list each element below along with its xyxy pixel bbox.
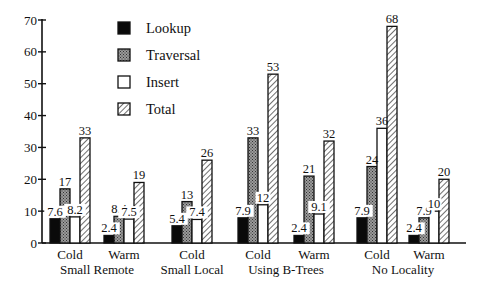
group-label: Small Remote	[60, 262, 134, 277]
group-label: No Locality	[372, 262, 435, 277]
y-tick-label: 60	[24, 44, 37, 59]
value-label-insert: 7.5	[121, 205, 137, 219]
bar-insert	[314, 214, 324, 243]
bar-total	[268, 74, 278, 243]
legend-swatch-traversal	[118, 49, 130, 61]
value-label-insert: 12	[257, 191, 270, 205]
group-label: Using B-Trees	[248, 262, 324, 277]
value-label-traversal: 17	[59, 175, 72, 189]
legend-label-insert: Insert	[146, 74, 179, 90]
subgroup-label: Cold	[245, 247, 271, 262]
value-label-insert: 10	[428, 197, 441, 211]
bar-total	[387, 26, 397, 243]
value-label-insert: 9.1	[311, 200, 327, 214]
subgroup-label: Cold	[57, 247, 83, 262]
bar-lookup	[172, 226, 182, 243]
value-label-lookup: 7.6	[47, 205, 63, 219]
value-label-lookup: 2.4	[406, 221, 422, 235]
bar-chart: 010203040506070 7.6178.2332.48.47.5195.4…	[0, 0, 480, 285]
legend-label-lookup: Lookup	[146, 20, 191, 36]
bar-lookup	[294, 235, 304, 243]
legend-label-total: Total	[146, 101, 176, 117]
y-tick-label: 10	[24, 204, 37, 219]
value-label-total: 33	[79, 124, 92, 138]
value-label-traversal: 24	[366, 153, 379, 167]
subgroup-label: Cold	[179, 247, 205, 262]
legend-swatch-lookup	[118, 22, 130, 34]
category-labels: ColdWarmSmall RemoteColdSmall LocalColdW…	[57, 247, 444, 277]
bar-total	[439, 179, 449, 243]
subgroup-label: Warm	[413, 247, 444, 262]
value-label-total: 20	[438, 165, 451, 179]
y-tick-label: 40	[24, 108, 37, 123]
value-label-lookup: 2.4	[101, 221, 117, 235]
bar-lookup	[50, 219, 60, 243]
value-label-total: 19	[133, 168, 146, 182]
value-label-lookup: 7.9	[354, 204, 370, 218]
bar-insert	[377, 128, 387, 243]
value-label-lookup: 7.9	[235, 204, 251, 218]
subgroup-label: Warm	[108, 247, 139, 262]
value-label-insert: 36	[376, 114, 389, 128]
bar-total	[202, 160, 212, 243]
subgroup-label: Warm	[298, 247, 329, 262]
bar-lookup	[104, 235, 114, 243]
bar-insert	[192, 219, 202, 243]
value-label-insert: 7.4	[189, 205, 205, 219]
bar-lookup	[238, 218, 248, 243]
bar-lookup	[409, 235, 419, 243]
y-tick-label: 20	[24, 172, 37, 187]
value-label-traversal: 33	[247, 124, 260, 138]
subgroup-label: Cold	[364, 247, 390, 262]
bar-insert	[258, 205, 268, 243]
legend: LookupTraversalInsertTotal	[118, 20, 200, 117]
value-label-insert: 8.2	[67, 203, 83, 217]
value-label-lookup: 2.4	[291, 221, 307, 235]
value-label-total: 68	[386, 12, 399, 26]
value-label-traversal: 21	[303, 162, 316, 176]
bar-total	[324, 141, 334, 243]
bar-insert	[70, 217, 80, 243]
y-tick-label: 30	[24, 140, 37, 155]
bar-lookup	[357, 218, 367, 243]
bar-insert	[124, 219, 134, 243]
legend-swatch-insert	[118, 76, 130, 88]
legend-swatch-total	[118, 103, 130, 115]
bar-total	[80, 138, 90, 243]
y-tick-label: 70	[24, 13, 37, 28]
legend-label-traversal: Traversal	[146, 47, 200, 63]
value-label-total: 32	[323, 127, 336, 141]
value-label-traversal: 13	[181, 188, 194, 202]
y-tick-label: 0	[31, 236, 38, 251]
value-label-lookup: 5.4	[169, 212, 185, 226]
group-label: Small Local	[160, 262, 224, 277]
y-tick-label: 50	[24, 76, 37, 91]
value-label-total: 53	[267, 60, 280, 74]
value-label-total: 26	[201, 146, 214, 160]
